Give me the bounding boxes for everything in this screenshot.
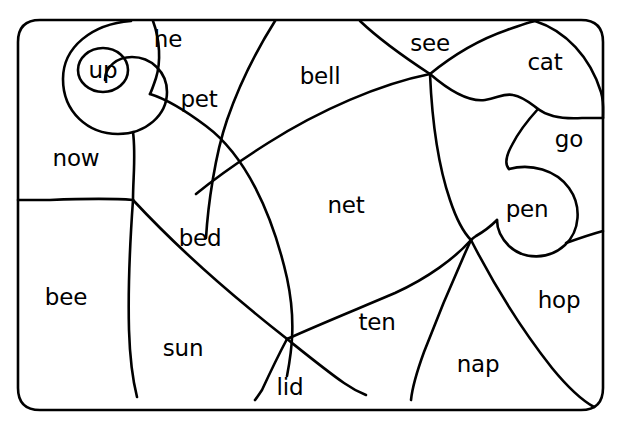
region-label-bell[interactable]: bell bbox=[300, 65, 341, 88]
region-label-ten[interactable]: ten bbox=[358, 311, 395, 334]
nap-hop-divider-path bbox=[471, 240, 594, 407]
region-label-see[interactable]: see bbox=[410, 32, 450, 55]
region-label-now[interactable]: now bbox=[53, 147, 100, 170]
region-label-bed[interactable]: bed bbox=[179, 227, 222, 250]
cat-bottom-boundary-path bbox=[430, 74, 603, 118]
region-label-he[interactable]: he bbox=[154, 28, 182, 51]
region-label-up[interactable]: up bbox=[89, 59, 118, 82]
net-right-boundary-path bbox=[430, 74, 471, 240]
word-map-worksheet: up he pet bell see cat go now net pen be… bbox=[0, 0, 621, 424]
region-label-go[interactable]: go bbox=[555, 128, 583, 151]
region-label-lid[interactable]: lid bbox=[277, 376, 304, 399]
region-label-nap[interactable]: nap bbox=[457, 353, 500, 376]
bee-sun-divider-path bbox=[129, 200, 137, 397]
region-label-cat[interactable]: cat bbox=[527, 51, 562, 74]
up-spiral-tail-path bbox=[133, 132, 134, 200]
bed-sun-divider-path bbox=[133, 200, 287, 339]
region-label-bee[interactable]: bee bbox=[45, 286, 87, 309]
pen-spiral-tail-path bbox=[471, 220, 497, 240]
region-label-pen[interactable]: pen bbox=[506, 198, 549, 221]
bell-net-divider-path bbox=[196, 74, 430, 194]
now-bee-divider-path bbox=[18, 199, 133, 200]
go-left-boundary-path bbox=[506, 109, 538, 169]
region-label-pet[interactable]: pet bbox=[180, 88, 217, 111]
region-label-sun[interactable]: sun bbox=[163, 337, 204, 360]
region-label-hop[interactable]: hop bbox=[538, 289, 581, 312]
region-label-net[interactable]: net bbox=[327, 194, 364, 217]
